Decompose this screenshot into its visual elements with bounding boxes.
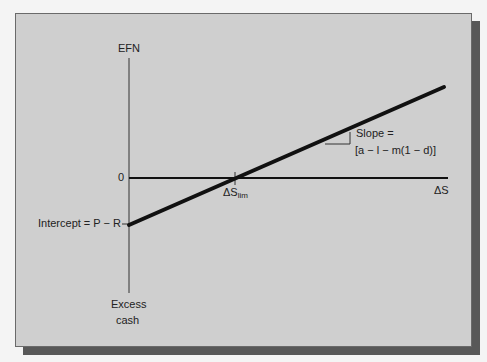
- y-axis-top-label: EFN: [118, 42, 140, 55]
- y-axis-bottom-label-line1: Excess: [111, 298, 146, 311]
- threshold-label-sub: lim: [238, 191, 248, 200]
- threshold-label: ΔSlim: [223, 186, 248, 201]
- diagram-graphics: [0, 0, 487, 362]
- intercept-label: Intercept = P − R: [38, 217, 121, 230]
- slope-label-line1: Slope =: [356, 127, 394, 140]
- y-axis-bottom-label-line2: cash: [116, 314, 139, 327]
- slope-label-line2: [a − l − m(1 − d)]: [355, 144, 436, 157]
- zero-label: 0: [118, 171, 124, 184]
- x-axis-label: ΔS: [434, 184, 449, 197]
- threshold-label-main: ΔS: [223, 186, 238, 198]
